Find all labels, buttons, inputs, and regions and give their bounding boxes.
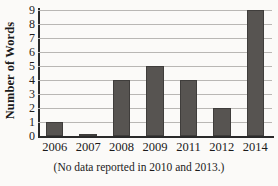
y-axis-tick-label: 1 bbox=[29, 116, 35, 128]
x-axis-tick-label: 2006 bbox=[42, 140, 67, 155]
bar bbox=[146, 66, 163, 136]
x-axis-tick-label: 2008 bbox=[109, 140, 134, 155]
y-axis-tick-label: 2 bbox=[29, 102, 35, 114]
bar bbox=[180, 80, 197, 136]
y-axis-tick-label: 7 bbox=[29, 32, 35, 44]
bar-series bbox=[38, 10, 272, 136]
x-axis-tick-label: 2007 bbox=[76, 140, 101, 155]
y-axis-tick-label: 0 bbox=[29, 130, 35, 142]
x-axis-tick-label: 2012 bbox=[209, 140, 234, 155]
y-axis-tick-label: 5 bbox=[29, 60, 35, 72]
y-axis-title-text: Number of Words bbox=[4, 21, 19, 119]
bar-chart-figure: Number of Words 0123456789 2006200720082… bbox=[0, 0, 278, 186]
y-axis-tick-label: 9 bbox=[29, 4, 35, 16]
bar bbox=[79, 134, 96, 136]
bar bbox=[113, 80, 130, 136]
chart-caption: (No data reported in 2010 and 2013.) bbox=[0, 161, 278, 173]
y-axis-tick-label: 4 bbox=[29, 74, 35, 86]
plot-area bbox=[38, 10, 272, 136]
bar bbox=[213, 108, 230, 136]
y-axis-tick-labels: 0123456789 bbox=[22, 10, 36, 136]
y-axis-tick-label: 3 bbox=[29, 88, 35, 100]
bar bbox=[46, 122, 63, 136]
x-axis-tick-label: 2009 bbox=[143, 140, 168, 155]
y-axis-tick-label: 6 bbox=[29, 46, 35, 58]
y-axis-tick-label: 8 bbox=[29, 18, 35, 30]
x-axis-tick-label: 2014 bbox=[243, 140, 268, 155]
bar bbox=[247, 10, 264, 136]
y-axis-title: Number of Words bbox=[0, 0, 22, 140]
x-axis-tick-label: 2011 bbox=[176, 140, 201, 155]
x-axis-tick-labels: 2006200720082009201120122014 bbox=[38, 140, 272, 158]
x-axis-line bbox=[38, 136, 274, 138]
